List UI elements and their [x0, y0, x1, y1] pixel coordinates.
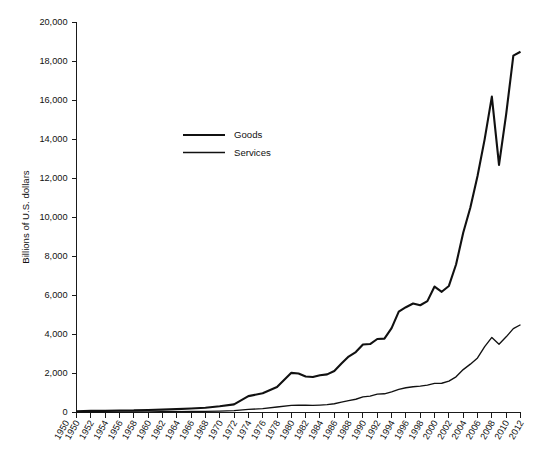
line-chart: 02,0004,0006,0008,00010,00012,00014,0001…: [0, 0, 538, 469]
y-tick-label: 0: [62, 407, 67, 417]
y-tick-label: 12,000: [39, 173, 67, 183]
legend-label-services: Services: [234, 147, 271, 158]
y-tick-label: 16,000: [39, 95, 67, 105]
y-tick-label: 2,000: [45, 368, 68, 378]
axes-group: [77, 23, 521, 413]
y-axis-title: Billions of U.S. dollars: [20, 170, 31, 264]
series-line-goods: [77, 52, 521, 412]
x-tick-label: 2012: [507, 419, 526, 442]
y-tick-label: 18,000: [39, 56, 67, 66]
legend-label-goods: Goods: [234, 129, 262, 140]
y-tick-label: 10,000: [39, 212, 67, 222]
chart-legend: GoodsServices: [183, 129, 271, 158]
y-tick-label: 8,000: [45, 251, 68, 261]
y-axis-ticks: 02,0004,0006,0008,00010,00012,00014,0001…: [39, 17, 76, 417]
y-tick-label: 14,000: [39, 134, 67, 144]
x-axis-ticks: 1950195019521954195619581960196219641966…: [52, 413, 525, 442]
y-tick-label: 4,000: [45, 329, 68, 339]
series-lines: [77, 52, 521, 412]
series-line-services: [77, 325, 521, 412]
y-tick-label: 20,000: [39, 17, 67, 27]
chart-container: 02,0004,0006,0008,00010,00012,00014,0001…: [0, 0, 538, 469]
y-tick-label: 6,000: [45, 290, 68, 300]
